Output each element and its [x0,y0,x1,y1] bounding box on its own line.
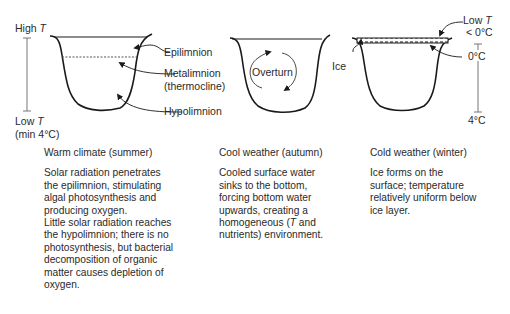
autumn-description: Cooled surface water sinks to the bottom… [219,167,359,241]
autumn-panel: Overturn [230,35,330,112]
below-zero-label: < 0°C [466,26,493,38]
summer-caption: Warm climate (summer) Solar radiation pe… [44,147,214,291]
low-t-label: Low T [15,115,45,127]
ice-label: Ice [332,60,346,72]
epilimnion-label: Epilimnion [164,46,213,58]
hypolimnion-label: Hypolimnion [164,105,222,117]
low-t-label: Low T [463,14,493,26]
winter-description: Ice forms on the surface; temperature re… [370,167,510,217]
summer-description: Solar radiation penetrates the epilimnio… [44,167,214,291]
low-t-min-note: (min 4°C) [15,128,59,140]
metalimnion-label: Metalimnion [164,67,221,79]
overturn-label: Overturn [252,66,293,78]
temperature-scale [23,38,31,111]
autumn-title: Cool weather (autumn) [219,147,359,159]
thermocline-label: (thermocline) [164,80,225,92]
summer-title: Warm climate (summer) [44,147,214,159]
four-celsius-label: 4°C [468,114,486,126]
summer-lake-basin [50,34,152,110]
ice-layer [357,38,448,43]
winter-title: Cold weather (winter) [370,147,510,159]
winter-caption: Cold weather (winter) Ice forms on the s… [370,147,510,217]
autumn-caption: Cool weather (autumn) Cooled surface wat… [219,147,359,242]
high-t-label: High T [15,22,48,34]
winter-panel: Ice Low T < 0°C 0°C 4°C [332,14,493,126]
winter-lake-basin [352,38,452,111]
zero-celsius-label: 0°C [468,50,486,62]
summer-panel: High T Low T (min 4°C) Epilimnion Metali… [15,22,225,140]
